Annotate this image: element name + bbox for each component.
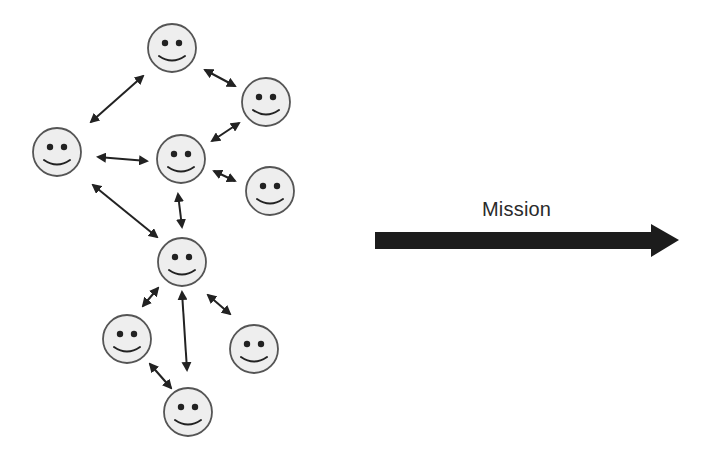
right-arrow-icon	[375, 224, 679, 257]
smiley-face-icon	[158, 238, 206, 286]
double-arrow-icon	[150, 364, 171, 388]
double-arrow-icon	[208, 295, 230, 314]
smiley-face-icon	[242, 78, 290, 126]
diagram-canvas: Mission	[0, 0, 714, 465]
team-network-diagram	[0, 0, 714, 465]
double-arrow-icon	[212, 123, 239, 141]
double-arrow-icon	[93, 185, 157, 237]
smiley-face-icon	[157, 135, 205, 183]
smiley-face-icon	[230, 325, 278, 373]
double-arrow-icon	[178, 194, 182, 227]
mission-label: Mission	[482, 199, 551, 219]
mission-arrow	[375, 224, 679, 257]
smiley-face-icon	[164, 388, 212, 436]
smiley-face-icon	[33, 128, 81, 176]
smiley-face-icon	[246, 167, 294, 215]
smiley-face-icon	[103, 315, 151, 363]
double-arrow-icon	[182, 292, 187, 370]
double-arrow-icon	[205, 70, 235, 86]
double-arrow-icon	[91, 76, 143, 122]
double-arrow-icon	[214, 171, 235, 181]
smiley-face-icon	[148, 24, 196, 72]
team-members	[33, 24, 294, 436]
double-arrow-icon	[98, 157, 147, 161]
double-arrow-icon	[143, 288, 158, 306]
